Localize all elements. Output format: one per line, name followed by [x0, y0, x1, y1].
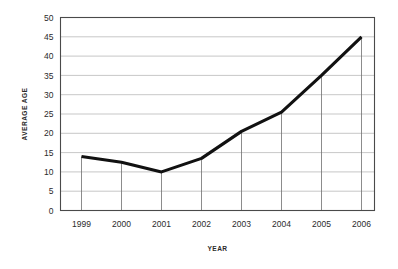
chart-canvas: 05101520253035404550 1999200020012002200…	[0, 0, 398, 269]
data-series-line	[82, 37, 362, 172]
x-axis-tick-label: 2000	[112, 219, 131, 229]
x-axis-tick-label: 2006	[352, 219, 371, 229]
x-axis-title: YEAR	[207, 245, 227, 252]
horizontal-gridlines	[61, 37, 375, 191]
x-axis-tick-label: 1999	[72, 219, 91, 229]
x-axis-tick-labels: 19992000200120022003200420052006	[72, 219, 371, 229]
x-axis-tick-label: 2004	[272, 219, 291, 229]
x-axis-tick-label: 2005	[312, 219, 331, 229]
y-axis-tick-label: 40	[44, 51, 54, 61]
y-axis-title: AVERAGE AGE	[21, 87, 28, 140]
y-axis-tick-label: 50	[44, 13, 54, 23]
x-axis-tick-label: 2002	[192, 219, 211, 229]
y-axis-tick-label: 35	[44, 71, 54, 81]
y-axis-tick-label: 20	[44, 128, 54, 138]
y-axis-tick-labels: 05101520253035404550	[44, 13, 54, 216]
y-axis-tick-label: 0	[49, 206, 54, 216]
x-axis-tick-label: 2001	[152, 219, 171, 229]
y-axis-tick-label: 25	[44, 109, 54, 119]
y-axis-tick-label: 15	[44, 148, 54, 158]
y-axis-tick-label: 30	[44, 90, 54, 100]
line-chart: 05101520253035404550 1999200020012002200…	[0, 0, 398, 269]
y-axis-tick-label: 10	[44, 167, 54, 177]
x-axis-tick-label: 2003	[232, 219, 251, 229]
vertical-gridlines	[82, 37, 362, 211]
y-axis-tick-label: 5	[49, 186, 54, 196]
y-axis-tick-label: 45	[44, 32, 54, 42]
